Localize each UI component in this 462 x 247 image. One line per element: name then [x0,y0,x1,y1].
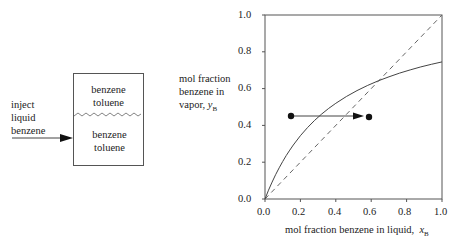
y-tick-label: 1.0 [238,9,251,20]
diagonal-line [265,15,442,199]
y-tick-label: 0.6 [238,82,251,93]
data-point-start [288,113,294,119]
x-subscript: B [424,230,429,238]
data-point-end [366,114,372,120]
phase-interface-line [74,113,141,116]
x-tick-label: 0.2 [292,206,305,217]
inject-arrow-icon [12,134,73,142]
arrowhead-icon [353,113,364,120]
y-tick-label: 0.8 [238,45,251,56]
x-tick-label: 0.4 [328,206,341,217]
x-tick-label: 0.0 [257,206,270,217]
x-axis-label: mol fraction benzene in liquid, xB [285,223,429,241]
x-tick-label: 1.0 [434,206,447,217]
x-axis-label-text: mol fraction benzene in liquid, [285,224,414,235]
equilibrium-curve [265,62,442,199]
x-tick-label: 0.6 [363,206,376,217]
graphics-layer [0,0,462,247]
y-tick-label: 0.0 [238,193,251,204]
y-tick-label: 0.2 [238,156,251,167]
x-tick-label: 0.8 [398,206,411,217]
y-tick-label: 0.4 [238,119,251,130]
